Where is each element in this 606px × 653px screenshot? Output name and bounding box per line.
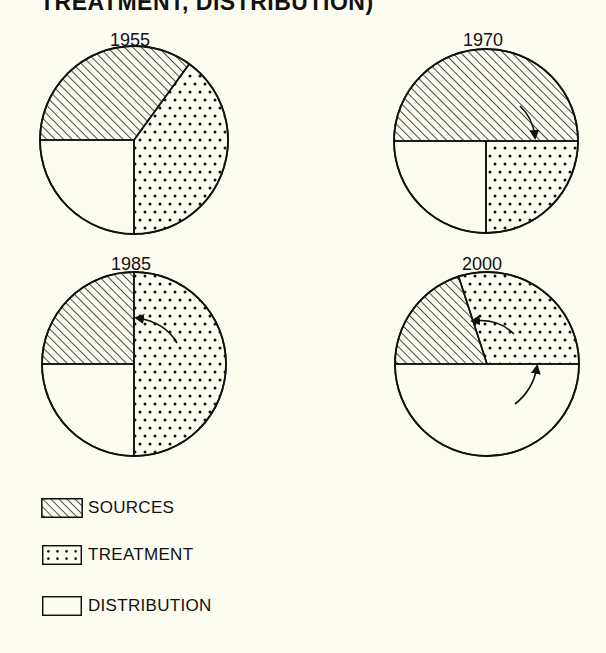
slice-sources: [394, 49, 578, 141]
slice-distribution: [394, 141, 486, 233]
slice-distribution: [395, 364, 579, 456]
slice-distribution: [40, 140, 134, 234]
slice-sources: [42, 272, 134, 364]
legend-label: SOURCES: [88, 498, 174, 518]
pie-1985: [42, 272, 226, 456]
arrow-icon: [515, 367, 537, 404]
pie-2000: [395, 272, 579, 456]
pie-1970: [394, 49, 578, 233]
legend-label: TREATMENT: [88, 545, 193, 565]
legend-item-sources: SOURCES: [40, 497, 174, 519]
blank-swatch-icon: [40, 596, 84, 616]
pie-1955: [40, 46, 228, 234]
hatch-swatch-icon: [40, 498, 84, 518]
slice-distribution: [42, 364, 134, 456]
legend-item-distribution: DISTRIBUTION: [40, 595, 212, 617]
legend-label: DISTRIBUTION: [88, 596, 212, 616]
slice-treatment: [486, 141, 578, 233]
slice-treatment: [134, 272, 226, 456]
pies-layer: [40, 46, 579, 456]
legend-item-treatment: TREATMENT: [40, 544, 193, 566]
dots-swatch-icon: [40, 545, 84, 565]
